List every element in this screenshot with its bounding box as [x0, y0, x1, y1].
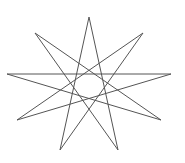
star-polygram: [0, 0, 185, 163]
diagram-canvas: [0, 0, 185, 163]
star-outline: [7, 17, 171, 150]
